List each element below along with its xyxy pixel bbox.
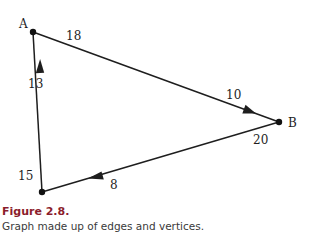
graph-diagram: A B C 18 10 20 8 15 13 [0,0,309,200]
vertex-c [39,189,45,195]
figure-caption-text: Graph made up of edges and vertices. [2,219,204,233]
weight-bc-end: 8 [110,178,118,192]
arrow-a-b-icon [242,105,256,114]
weight-ca-start: 15 [18,169,33,183]
vertex-label-b: B [288,116,297,130]
weight-ab-start: 18 [66,29,81,43]
arrow-b-c-icon [88,172,104,180]
edge-a-b [33,32,279,122]
vertex-a [30,29,36,35]
vertex-label-c: C [35,199,44,200]
edge-b-c [42,122,279,192]
figure-caption: Figure 2.8. Graph made up of edges and v… [2,205,204,233]
vertex-b [276,119,282,125]
weight-ca-end: 13 [28,77,43,91]
arrow-c-a-icon [36,59,44,73]
figure-title: Figure 2.8. [2,205,204,219]
vertex-label-a: A [18,17,28,31]
weight-bc-start: 20 [253,133,268,147]
edge-c-a [33,32,42,192]
weight-ab-end: 10 [226,88,241,102]
